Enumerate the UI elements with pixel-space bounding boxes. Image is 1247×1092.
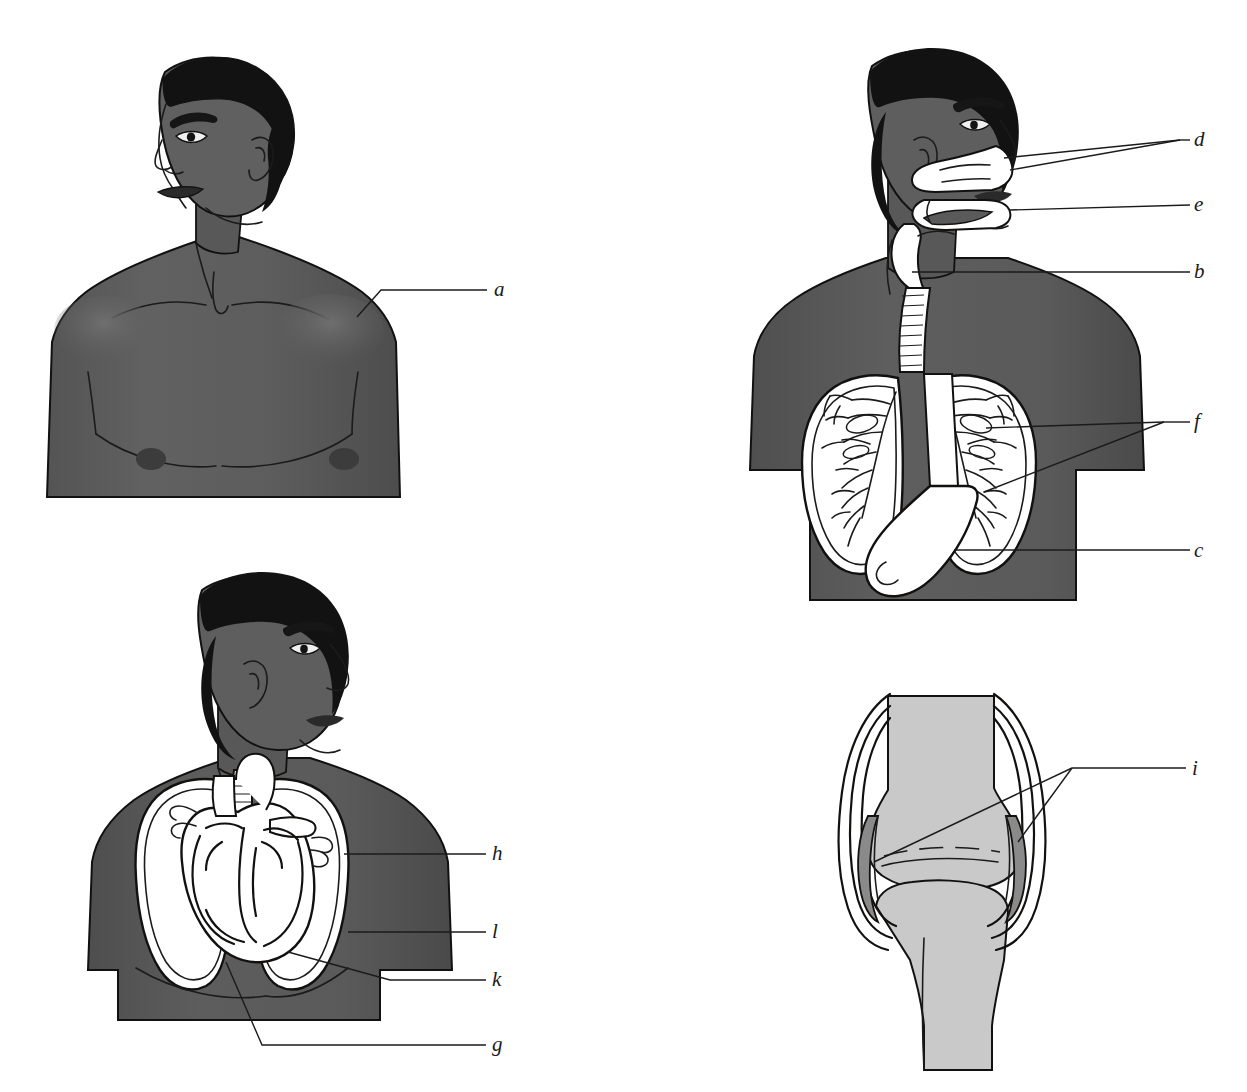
callout-label-b: b — [1194, 261, 1205, 282]
callout-label-e: e — [1194, 194, 1203, 215]
nipple-left — [136, 448, 166, 470]
superior-vena-cava-shape — [213, 776, 236, 816]
callout-label-l: l — [492, 921, 498, 942]
external-torso-illustration — [0, 0, 624, 546]
callout-label-d: d — [1194, 129, 1205, 150]
pupil-shape — [187, 132, 195, 141]
leader-line-e — [1010, 205, 1190, 210]
callout-label-k: k — [492, 969, 501, 990]
knee-joint-illustration — [750, 660, 1247, 1092]
esophagus-shape — [924, 374, 958, 486]
callout-label-h: h — [492, 843, 503, 864]
panel-lower-left: h l k g — [0, 590, 624, 1092]
callout-label-g: g — [492, 1034, 503, 1055]
callout-label-f: f — [1194, 411, 1200, 432]
panel-upper-right: d e b f c — [624, 0, 1247, 660]
callout-label-i: i — [1192, 758, 1198, 779]
pupil-shape — [970, 121, 978, 129]
shoulder-highlight-left — [54, 296, 154, 364]
panel-upper-left: a — [0, 0, 624, 546]
tibia-shape — [876, 880, 1008, 1070]
nipple-right — [329, 448, 359, 470]
callout-label-a: a — [494, 279, 505, 300]
heart-lungs-thorax-illustration — [0, 590, 624, 1092]
panel-lower-right: i — [750, 660, 1247, 1092]
pupil-shape — [300, 645, 308, 653]
respiratory-digestive-illustration — [624, 0, 1247, 660]
callout-label-c: c — [1194, 540, 1203, 561]
